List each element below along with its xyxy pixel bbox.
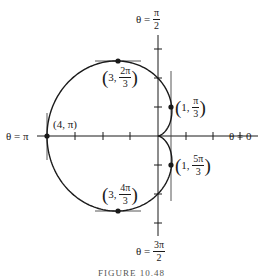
axis-label-top-den: 2 [154,20,159,31]
polar-diagram [0,0,263,276]
axis-label-left: θ = π [6,131,29,142]
point-3-2pi-3 [115,58,120,63]
point-4-pi [44,133,49,138]
axis-label-right: θ = 0 [229,131,251,142]
axis-label-bottom: θ = 3π2 [136,240,165,263]
figure-caption: FIGURE 10.48 [0,268,263,276]
label-point-3-2pi-3: (3, 2π3) [102,66,138,89]
label-point-1-5pi-3: (1, 5π3) [175,154,211,177]
axis-label-bottom-den: 2 [157,252,162,263]
label-point-4-pi: (4, π) [53,119,77,130]
label-point-1-pi-3: (1, π3) [175,96,206,119]
axis-label-top: θ = π2 [136,8,160,31]
label-point-3-4pi-3: (3, 4π3) [102,183,138,206]
point-1-5pi-3 [168,162,173,167]
axis-label-bottom-prefix: θ = [136,245,153,257]
point-3-4pi-3 [115,208,120,213]
axis-label-top-prefix: θ = [136,13,153,25]
axis-label-bottom-num: 3π [153,240,165,252]
axis-label-top-num: π [153,8,160,20]
point-1-pi-3 [168,104,173,109]
